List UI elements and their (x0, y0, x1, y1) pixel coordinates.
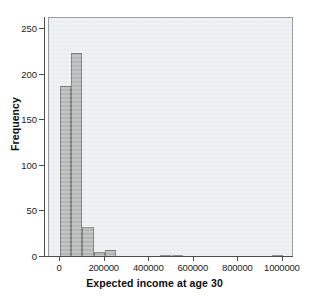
x-tick-label: 400000 (133, 262, 164, 273)
y-tick-label: 200 (21, 68, 37, 79)
y-tick-mark (39, 256, 44, 257)
x-axis-title: Expected income at age 30 (0, 277, 309, 289)
x-tick-mark (193, 256, 194, 261)
y-tick-label: 50 (26, 205, 37, 216)
histogram-figure: 02000004000006000008000001000000 0501001… (0, 0, 309, 306)
y-tick-mark (39, 165, 44, 166)
y-tick-mark (39, 210, 44, 211)
histogram-bar (82, 227, 93, 257)
y-axis-title: Frequency (9, 64, 21, 184)
histogram-bar (60, 86, 71, 257)
y-tick-label: 150 (21, 114, 37, 125)
y-tick-label: 100 (21, 159, 37, 170)
x-tick-label: 200000 (88, 262, 119, 273)
x-tick-mark (237, 256, 238, 261)
y-tick-mark (39, 119, 44, 120)
y-tick-label: 250 (21, 22, 37, 33)
x-tick-label: 600000 (178, 262, 209, 273)
x-tick-label: 800000 (222, 262, 253, 273)
y-axis-line (44, 17, 45, 257)
x-tick-mark (104, 256, 105, 261)
x-tick-mark (282, 256, 283, 261)
y-tick-mark (39, 28, 44, 29)
x-tick-label: 0 (57, 262, 62, 273)
x-tick-label: 1000000 (264, 262, 300, 273)
x-tick-mark (59, 256, 60, 261)
bars-group (49, 18, 294, 257)
x-axis-line (44, 256, 293, 257)
y-tick-mark (39, 74, 44, 75)
x-tick-mark (148, 256, 149, 261)
histogram-bar (71, 53, 82, 257)
y-tick-label: 0 (32, 251, 37, 262)
plot-panel (48, 17, 293, 256)
